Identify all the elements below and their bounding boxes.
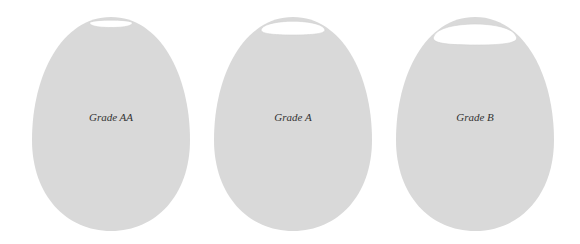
egg-grade-aa: Grade AA <box>32 17 190 231</box>
egg-shell <box>214 17 372 231</box>
egg-label-grade-aa: Grade AA <box>89 111 133 123</box>
egg-shell <box>396 17 554 231</box>
egg-label-grade-b: Grade B <box>456 111 494 123</box>
egg-shell <box>32 17 190 231</box>
egg-grade-diagram: Grade AA Grade A Grade B <box>0 0 580 244</box>
egg-grade-a: Grade A <box>214 17 372 231</box>
egg-label-grade-a: Grade A <box>274 111 312 123</box>
air-cell <box>90 20 132 27</box>
egg-grade-b: Grade B <box>396 17 554 231</box>
